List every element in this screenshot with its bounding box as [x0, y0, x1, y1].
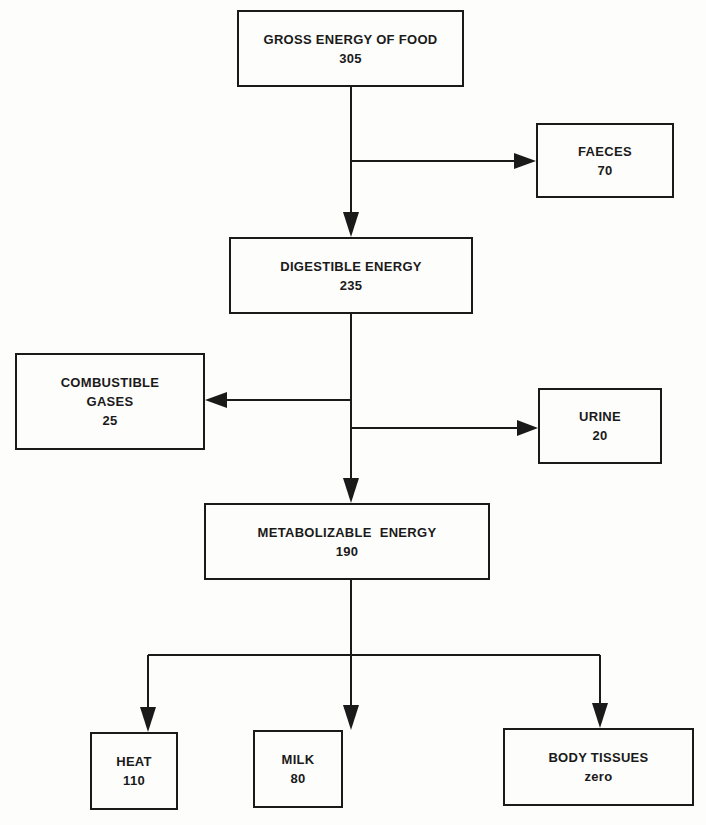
- node-gross-energy: GROSS ENERGY OF FOOD 305: [237, 10, 464, 87]
- node-metabolizable-energy: METABOLIZABLE ENERGY 190: [204, 503, 490, 580]
- arrowhead-down-icon: [140, 707, 156, 732]
- arrowhead-down-icon: [343, 478, 359, 503]
- node-value: 305: [339, 49, 362, 68]
- arrowhead-right-icon: [514, 153, 536, 169]
- node-label: GASES: [86, 392, 133, 411]
- node-heat: HEAT 110: [90, 732, 178, 810]
- node-combustible-gases: COMBUSTIBLE GASES 25: [15, 353, 205, 450]
- energy-flow-diagram: GROSS ENERGY OF FOOD 305 FAECES 70 DIGES…: [0, 0, 706, 825]
- node-value: 25: [102, 411, 117, 430]
- node-faeces: FAECES 70: [536, 123, 674, 198]
- node-body-tissues: BODY TISSUES zero: [503, 728, 694, 806]
- node-value: 110: [123, 771, 145, 790]
- node-urine: URINE 20: [538, 388, 662, 464]
- node-digestible-energy: DIGESTIBLE ENERGY 235: [229, 237, 473, 314]
- node-label: BODY TISSUES: [548, 748, 648, 767]
- node-label: COMBUSTIBLE: [61, 373, 160, 392]
- node-label: MILK: [282, 750, 315, 769]
- node-label: URINE: [579, 407, 621, 426]
- node-label: FAECES: [578, 142, 632, 161]
- arrowhead-down-icon: [343, 212, 359, 237]
- arrowhead-right-icon: [517, 420, 538, 436]
- node-label: GROSS ENERGY OF FOOD: [263, 30, 437, 49]
- node-value: 20: [592, 426, 607, 445]
- node-value: 190: [336, 542, 359, 561]
- node-value: 80: [290, 769, 305, 788]
- node-value: zero: [585, 767, 613, 786]
- node-value: 235: [340, 276, 363, 295]
- arrowhead-down-icon: [343, 705, 359, 730]
- arrowhead-down-icon: [592, 703, 608, 728]
- node-value: 70: [597, 161, 612, 180]
- node-label: HEAT: [116, 752, 152, 771]
- node-label: DIGESTIBLE ENERGY: [280, 257, 422, 276]
- node-label: METABOLIZABLE ENERGY: [258, 523, 437, 542]
- arrowhead-left-icon: [205, 392, 227, 408]
- node-milk: MILK 80: [253, 730, 343, 808]
